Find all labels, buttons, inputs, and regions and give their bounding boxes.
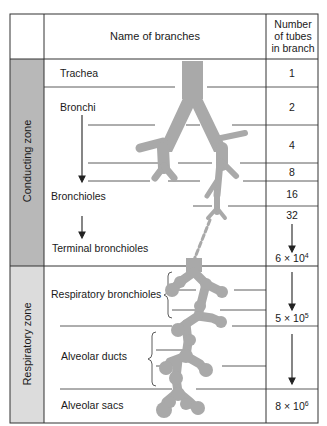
count-mantissa: 6 × 10 [275, 252, 305, 264]
count-bronchi: 2 [266, 101, 318, 113]
count-respiratory-bronchioles: 5 × 105 [266, 312, 318, 324]
count-4: 4 [266, 139, 318, 151]
header-number-of-tubes: Number of tubes in branch [268, 18, 318, 54]
header-name-of-branches: Name of branches [44, 30, 266, 42]
count-terminal-bronchioles: 6 × 104 [266, 252, 318, 264]
count-exponent: 6 [305, 400, 309, 407]
count-16: 16 [266, 188, 318, 200]
count-mantissa: 8 × 10 [275, 400, 305, 412]
count-32: 32 [266, 209, 318, 221]
count-alveolar-sacs: 8 × 106 [266, 400, 318, 412]
header-line-3: in branch [268, 42, 318, 54]
zone-label-respiratory: Respiratory zone [21, 294, 33, 394]
branch-bronchi: Bronchi [60, 101, 96, 113]
branch-alveolar-ducts: Alveolar ducts [61, 350, 127, 362]
count-exponent: 5 [305, 312, 309, 319]
branch-alveolar-sacs: Alveolar sacs [61, 399, 123, 411]
branch-trachea: Trachea [60, 67, 98, 79]
airway-tree [140, 61, 245, 418]
zone-label-conducting: Conducting zone [21, 111, 33, 211]
count-8: 8 [266, 166, 318, 178]
branch-respiratory-bronchioles: Respiratory bronchioles [51, 288, 161, 300]
branch-terminal-bronchioles: Terminal bronchioles [52, 242, 148, 254]
header-line-2: of tubes [268, 30, 318, 42]
count-exponent: 4 [305, 252, 309, 259]
header-line-1: Number [268, 18, 318, 30]
count-mantissa: 5 × 10 [275, 312, 305, 324]
count-trachea: 1 [266, 67, 318, 79]
count-arrows [289, 224, 295, 384]
left-arrows [79, 115, 85, 238]
branch-bronchioles: Bronchioles [51, 190, 106, 202]
